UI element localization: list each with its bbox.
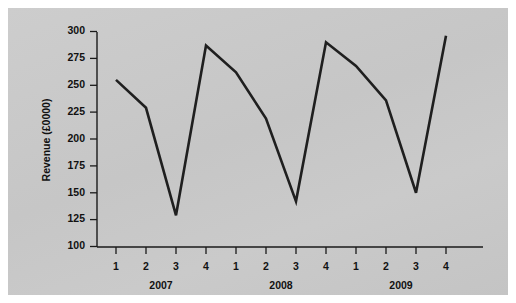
x-axis-tick-labels: 1 2 3 4 1 2 3 4 1 2 3 4 xyxy=(113,260,449,272)
x-tick-label: 1 xyxy=(113,260,119,272)
y-axis-ticks xyxy=(90,32,97,247)
group-label-2008: 2008 xyxy=(269,279,293,291)
x-tick-label: 3 xyxy=(173,260,179,272)
x-tick-label: 4 xyxy=(323,260,329,272)
x-tick-label: 1 xyxy=(233,260,239,272)
x-tick-label: 2 xyxy=(263,260,269,272)
x-axis-ticks xyxy=(116,247,446,254)
x-tick-label: 3 xyxy=(413,260,419,272)
y-tick-label: 125 xyxy=(67,212,85,224)
x-tick-label: 3 xyxy=(293,260,299,272)
line-chart: Revenue (£0000) 100 125 150 175 200 225 … xyxy=(0,0,516,303)
y-axis-tick-labels: 100 125 150 175 200 225 250 275 300 xyxy=(67,24,85,251)
revenue-series-line xyxy=(116,36,446,216)
x-tick-label: 4 xyxy=(203,260,209,272)
x-tick-label: 1 xyxy=(353,260,359,272)
x-axis-group-labels: 2007 2008 2009 xyxy=(149,279,413,291)
group-label-2007: 2007 xyxy=(149,279,173,291)
y-axis-title: Revenue (£0000) xyxy=(40,99,52,182)
y-tick-label: 175 xyxy=(67,159,85,171)
y-tick-label: 225 xyxy=(67,105,85,117)
x-tick-label: 2 xyxy=(383,260,389,272)
y-tick-label: 250 xyxy=(67,78,85,90)
y-tick-label: 150 xyxy=(67,186,85,198)
group-label-2009: 2009 xyxy=(389,279,413,291)
y-tick-label: 100 xyxy=(67,239,85,251)
x-tick-label: 2 xyxy=(143,260,149,272)
y-tick-label: 275 xyxy=(67,51,85,63)
x-tick-label: 4 xyxy=(443,260,449,272)
y-tick-label: 300 xyxy=(67,24,85,36)
chart-figure: Revenue (£0000) 100 125 150 175 200 225 … xyxy=(0,0,516,303)
y-tick-label: 200 xyxy=(67,132,85,144)
